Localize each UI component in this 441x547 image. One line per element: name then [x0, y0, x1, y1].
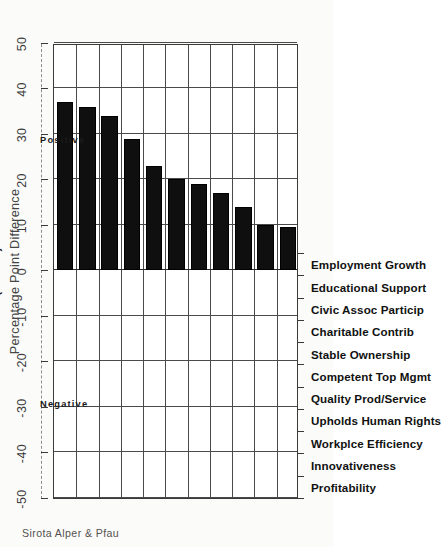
category-tick	[298, 453, 304, 454]
bar	[257, 225, 273, 271]
category-label: Civic Assoc Particip	[311, 303, 424, 316]
category-label: Employment Growth	[311, 258, 426, 271]
category-axis-ticks	[298, 44, 305, 499]
value-tick	[41, 498, 48, 499]
value-tick	[41, 271, 48, 272]
category-tick	[298, 342, 304, 343]
bar	[235, 207, 251, 271]
value-tick	[41, 43, 48, 44]
category-tick	[298, 298, 304, 299]
bar	[101, 116, 117, 271]
value-tick	[41, 453, 48, 454]
value-axis: -50-40-30-20-1001020304050	[41, 44, 53, 499]
category-label: Competent Top Mgmt	[311, 370, 431, 383]
category-tick	[298, 275, 304, 276]
value-tick	[41, 180, 48, 181]
region-label-negative: Negative	[40, 399, 88, 409]
bar	[168, 180, 184, 271]
value-axis-title: Percentage Point Difference	[8, 44, 22, 499]
bar-series	[54, 45, 297, 498]
category-tick	[298, 498, 304, 499]
region-label-positive: Positive	[40, 135, 85, 145]
category-tick	[298, 409, 304, 410]
category-label: Stable Ownership	[311, 348, 411, 361]
category-label: Upholds Human Rights	[311, 414, 441, 427]
category-tick	[298, 387, 304, 388]
category-tick	[298, 253, 304, 254]
category-label: Innovativeness	[311, 459, 396, 472]
value-gridline	[54, 42, 297, 43]
plot-area	[53, 44, 298, 499]
category-tick	[298, 320, 304, 321]
bar	[79, 107, 95, 271]
category-label: Educational Support	[311, 281, 426, 294]
category-label: Charitable Contrib	[311, 325, 414, 338]
category-axis-labels: ProfitabilityInnovativenessWorkplce Effi…	[305, 44, 333, 499]
bar	[191, 184, 207, 270]
category-tick	[298, 431, 304, 432]
credit-line: Sirota Alper & Pfau	[22, 527, 119, 539]
value-tick	[41, 89, 48, 90]
category-label: Quality Prod/Service	[311, 392, 426, 405]
category-label: Workplce Efficiency	[311, 437, 423, 450]
continuation-note: (Cont'd)	[0, 44, 2, 499]
value-tick	[41, 362, 48, 363]
category-tick	[298, 476, 304, 477]
bar	[124, 139, 140, 271]
bar	[280, 227, 296, 270]
value-tick	[41, 316, 48, 317]
bar	[146, 166, 162, 271]
value-tick	[41, 225, 48, 226]
category-label: Profitability	[311, 481, 376, 494]
category-tick	[298, 364, 304, 365]
bar	[57, 102, 73, 270]
bar	[213, 193, 229, 270]
